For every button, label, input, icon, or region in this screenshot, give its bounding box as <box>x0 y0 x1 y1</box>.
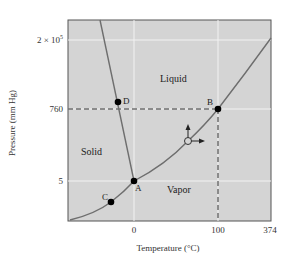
point-b-marker <box>215 106 222 113</box>
region-vapor-label: Vapor <box>167 184 192 195</box>
point-a-label: A <box>135 183 142 193</box>
open-circle-icon <box>185 138 192 145</box>
point-c-label: C <box>102 192 108 202</box>
point-d-marker <box>115 99 122 106</box>
y-tick-2e5: 2 × 105 <box>37 34 63 45</box>
phase-diagram: A B C D Liquid Solid Vapor 2 × 105 760 5… <box>0 0 291 264</box>
point-b-label: B <box>207 97 213 107</box>
y-tick-5: 5 <box>59 176 64 186</box>
x-axis-title: Temperature (°C) <box>136 243 199 253</box>
y-tick-760: 760 <box>50 104 64 114</box>
x-tick-100: 100 <box>211 225 225 235</box>
region-liquid-label: Liquid <box>160 73 187 84</box>
y-axis-title: Pressure (mm Hg) <box>7 90 17 156</box>
x-tick-374: 374 <box>263 225 277 235</box>
x-tick-0: 0 <box>132 225 137 235</box>
point-d-label: D <box>123 96 130 106</box>
region-solid-label: Solid <box>81 146 102 157</box>
point-c-marker <box>108 199 115 206</box>
